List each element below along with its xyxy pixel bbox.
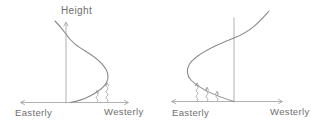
up-arrowhead-icon (215, 92, 218, 95)
westerly-label-left: Westerly (104, 106, 144, 117)
right-wind-profile-diagram (172, 11, 283, 104)
easterly-label-left: Easterly (15, 107, 52, 118)
wind-profile-curve-left (55, 21, 108, 103)
surface-wind-arrow (106, 83, 108, 102)
left-wind-profile-diagram (21, 21, 129, 105)
easterly-label-right: Easterly (172, 107, 209, 118)
surface-wind-arrow (206, 88, 208, 102)
height-axis-label: Height (61, 5, 92, 16)
wind-profile-curve-right (187, 11, 269, 102)
westerly-label-right: Westerly (270, 106, 310, 117)
wind-profile-figure: Height Easterly Westerly Easterly Wester… (0, 0, 311, 131)
